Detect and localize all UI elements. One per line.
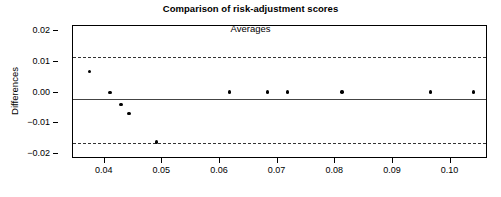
bland-altman-chart: Comparison of risk-adjustment scores Dif… xyxy=(0,0,501,197)
data-point xyxy=(228,90,231,93)
y-tick-mark xyxy=(53,61,58,62)
x-tick-mark xyxy=(104,158,105,163)
y-tick-mark xyxy=(53,122,58,123)
x-tick-mark xyxy=(219,158,220,163)
mean-difference xyxy=(73,99,486,100)
data-point xyxy=(155,140,158,143)
data-point xyxy=(266,90,269,93)
y-tick-label: 0.00 xyxy=(32,87,50,97)
x-tick-mark xyxy=(277,158,278,163)
x-tick-label: 0.05 xyxy=(153,165,171,175)
data-point xyxy=(286,90,289,93)
x-axis: 0.040.050.060.070.080.090.10 xyxy=(0,158,501,197)
y-tick-label: −0.01 xyxy=(27,117,50,127)
y-tick-mark xyxy=(53,92,58,93)
x-tick-label: 0.04 xyxy=(95,165,113,175)
x-tick-mark xyxy=(392,158,393,163)
x-tick-label: 0.07 xyxy=(268,165,286,175)
x-tick-label: 0.10 xyxy=(441,165,459,175)
data-point xyxy=(108,91,111,94)
y-tick-mark xyxy=(53,153,58,154)
plot-inner xyxy=(73,26,486,157)
data-point xyxy=(472,90,475,93)
data-point xyxy=(88,70,91,73)
x-tick-label: 0.08 xyxy=(325,165,343,175)
upper-limit-of-agreement xyxy=(73,57,486,58)
y-tick-label: −0.02 xyxy=(27,148,50,158)
x-tick-mark xyxy=(334,158,335,163)
x-tick-mark xyxy=(161,158,162,163)
data-point xyxy=(340,90,343,93)
x-tick-label: 0.09 xyxy=(383,165,401,175)
plot-area xyxy=(72,25,487,158)
x-tick-mark xyxy=(450,158,451,163)
data-point xyxy=(119,103,122,106)
lower-limit-of-agreement xyxy=(73,143,486,144)
data-point xyxy=(429,90,432,93)
data-point xyxy=(127,112,130,115)
y-tick-label: 0.01 xyxy=(32,56,50,66)
x-axis-title: Averages xyxy=(0,23,501,34)
x-tick-label: 0.06 xyxy=(210,165,228,175)
chart-title: Comparison of risk-adjustment scores xyxy=(0,3,501,14)
